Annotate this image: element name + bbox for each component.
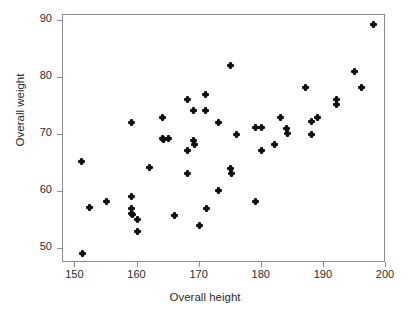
data-point [185, 148, 190, 153]
data-point [229, 171, 234, 176]
data-point [87, 205, 92, 210]
data-point [192, 142, 197, 147]
x-axis-tick-label: 200 [365, 268, 405, 280]
data-point [216, 188, 221, 193]
y-axis-tick [57, 248, 62, 249]
x-axis-tick-label: 150 [54, 268, 94, 280]
plot-area [62, 14, 385, 262]
data-point [259, 125, 264, 130]
data-point [359, 85, 364, 90]
data-point [203, 108, 208, 113]
data-point [234, 132, 239, 137]
data-points-layer [63, 15, 384, 261]
x-axis-tick-label: 160 [117, 268, 157, 280]
data-point [185, 171, 190, 176]
data-point [309, 119, 314, 124]
data-point [166, 136, 171, 141]
y-axis-tick-label: 80 [22, 69, 52, 81]
data-point [216, 120, 221, 125]
data-point [352, 69, 357, 74]
data-point [172, 213, 177, 218]
data-point [278, 115, 283, 120]
data-point [160, 115, 165, 120]
y-axis-tick-label: 60 [22, 183, 52, 195]
x-axis-tick-label: 180 [241, 268, 281, 280]
x-axis-tick-label: 190 [303, 268, 343, 280]
scatter-plot-figure: 1501601701801902005060708090 Overall hei… [0, 0, 410, 319]
y-axis-tick-label: 90 [22, 12, 52, 24]
y-axis-tick [57, 77, 62, 78]
data-point [185, 97, 190, 102]
x-axis-label: Overall height [0, 291, 410, 303]
y-axis-tick-label: 70 [22, 126, 52, 138]
y-axis-tick [57, 134, 62, 135]
data-point [203, 92, 208, 97]
y-axis-label: Overall weight [14, 45, 26, 175]
data-point [259, 148, 264, 153]
data-point [334, 102, 339, 107]
data-point [135, 217, 140, 222]
data-point [253, 199, 258, 204]
x-axis-tick-label: 170 [179, 268, 219, 280]
data-point [129, 194, 134, 199]
data-point [79, 159, 84, 164]
data-point [309, 132, 314, 137]
y-axis-tick-label: 50 [22, 240, 52, 252]
data-point [272, 142, 277, 147]
data-point [197, 223, 202, 228]
data-point [315, 115, 320, 120]
data-point [204, 206, 209, 211]
data-point [285, 131, 290, 136]
x-axis-tick [261, 262, 262, 267]
data-point [191, 108, 196, 113]
data-point [147, 165, 152, 170]
x-axis-tick [137, 262, 138, 267]
y-axis-tick [57, 20, 62, 21]
y-axis-tick [57, 191, 62, 192]
data-point [80, 251, 85, 256]
x-axis-tick [74, 262, 75, 267]
data-point [130, 212, 135, 217]
data-point [135, 229, 140, 234]
data-point [104, 199, 109, 204]
data-point [303, 85, 308, 90]
x-axis-tick [323, 262, 324, 267]
data-point [129, 120, 134, 125]
data-point [371, 22, 376, 27]
x-axis-tick [199, 262, 200, 267]
x-axis-tick [385, 262, 386, 267]
data-point [228, 63, 233, 68]
